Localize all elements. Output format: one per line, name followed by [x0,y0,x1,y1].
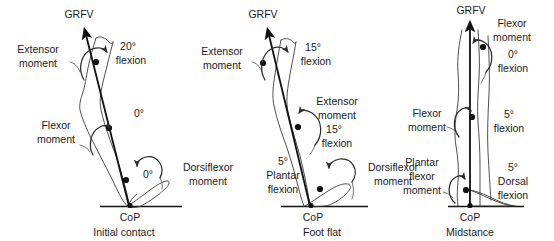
cop-marker [308,203,313,208]
cop-label: CoP [120,211,140,223]
ankle-moment-label-line1: Plantar [405,156,439,168]
panel-caption: Foot flat [303,226,341,238]
knee-moment-label-line2: moment [37,133,75,145]
gait-stance-diagram: GRFV Extensor moment 20° flexion Flexor … [0,0,554,241]
hip-moment-label-line2: moment [493,31,531,43]
hip-angle-label-line2: flexion [116,54,147,66]
ankle-joint-marker [123,177,129,183]
ankle-angle-label: 0° [143,168,153,180]
hip-angle-label-line2: flexion [301,55,332,67]
hip-moment-leader [70,62,80,72]
cop-label: CoP [460,211,480,223]
shank-lateral-contour [488,36,491,200]
ankle-moment-label-line2: moment [189,175,227,187]
knee-moment-label-line1: Extensor [316,95,358,107]
knee-moment-label-line2: moment [318,109,356,121]
ankle-angle-label-line2: Plantar [266,169,300,181]
ankle-joint-marker [463,187,469,193]
hip-angle-label-line1: 0° [508,48,518,60]
ankle-moment-label-line1: Dorsiflexor [183,161,234,173]
ankle-moment-label-line3: moment [403,184,441,196]
knee-angle-label-line1: 5° [504,108,514,120]
thigh-anterior-contour [96,37,113,44]
ankle-angle-label-line2: Dorsal [498,175,528,187]
thigh-anterior-contour [281,39,296,43]
knee-moment-label-line2: moment [408,121,446,133]
panel-caption: Midstance [446,226,494,238]
knee-angle-label-line2: flexion [494,122,525,134]
cop-label: CoP [303,211,323,223]
limb-outline-anterior [478,30,480,206]
hip-moment-label-line2: moment [203,59,241,71]
grfv-label: GRFV [456,4,485,16]
knee-angle-label-line2: flexion [322,137,353,149]
foot-outline [128,181,169,208]
grfv-label: GRFV [248,8,277,20]
ankle-joint-marker [317,186,323,192]
knee-moment-leader [310,145,315,154]
ankle-dorsiflexor-moment-arrow [329,159,355,182]
knee-angle-label: 0° [134,107,144,119]
limb-outline [273,40,304,206]
limb-outline-posterior [455,30,462,206]
ankle-angle-label-line1: 5° [508,161,518,173]
ankle-moment-leader [443,192,453,198]
hip-angle-label-line2: flexion [498,62,529,74]
grfv-label: GRFV [64,8,93,20]
knee-angle-label-line1: 15° [326,123,342,135]
panel-foot-flat: GRFV Extensor moment 15° flexion Extenso… [201,8,418,238]
hip-joint-marker [93,59,99,65]
knee-moment-label-line1: Flexor [41,119,71,131]
panel-initial-contact: GRFV Extensor moment 20° flexion Flexor … [17,8,233,238]
hip-joint-marker [480,44,486,50]
knee-joint-marker [469,114,475,120]
hip-angle-label-line1: 15° [305,41,321,53]
hip-moment-label-line1: Extensor [201,45,243,57]
cop-marker [467,203,472,208]
cop-marker [127,203,132,208]
hip-angle-label-line1: 20° [120,40,136,52]
ankle-moment-leader [352,182,354,199]
knee-joint-marker [295,124,301,130]
ankle-angle-label-line3: flexion [268,183,299,195]
ankle-moment-label-line2: flexor [409,170,435,182]
knee-moment-leader [80,145,90,152]
hip-moment-label-line1: Extensor [17,43,59,55]
ankle-angle-label-line3: flexion [498,189,529,201]
panel-caption: Initial contact [93,226,154,238]
hip-moment-label-line1: Flexor [497,17,527,29]
panel-midstance: GRFV Flexor moment 0° flexion Flexor mom… [403,4,531,238]
ankle-angle-label-line1: 5° [278,155,288,167]
hip-moment-label-line2: moment [19,57,57,69]
hip-moment-leader [481,72,486,83]
knee-moment-label-line1: Flexor [412,107,442,119]
